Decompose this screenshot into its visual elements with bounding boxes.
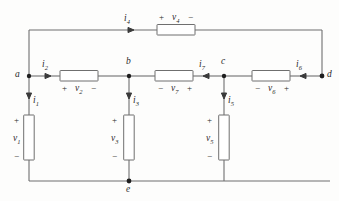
current-arrow-i5 xyxy=(221,93,226,99)
current-label-i4: i4 xyxy=(124,14,130,25)
polarity-plus-v4: + xyxy=(159,13,164,22)
polarity-plus-v1: + xyxy=(14,116,19,125)
polarity-plus-v3: + xyxy=(112,116,117,125)
node-label-e: e xyxy=(126,185,130,195)
voltage-label-v6: v6 xyxy=(268,84,275,95)
current-label-i7: i7 xyxy=(199,60,205,71)
current-arrow-i3 xyxy=(126,93,131,99)
voltage-label-v2: v2 xyxy=(75,84,82,95)
current-label-i6: i6 xyxy=(296,60,302,71)
current-label-i2: i2 xyxy=(42,60,48,71)
resistor-r2[interactable] xyxy=(60,71,98,82)
polarity-plus-v2: + xyxy=(62,84,67,93)
polarity-minus-v3: − xyxy=(112,152,117,161)
current-label-i5: i5 xyxy=(228,96,234,107)
node-label-a: a xyxy=(15,70,20,80)
voltage-label-v3: v3 xyxy=(111,134,118,145)
node-label-d: d xyxy=(327,70,332,80)
polarity-plus-v7: + xyxy=(187,84,192,93)
branch-middle-rail xyxy=(29,71,322,82)
branch-v3 xyxy=(124,76,135,181)
node-dot-d xyxy=(320,74,325,79)
current-arrow-i4 xyxy=(128,27,134,32)
polarity-minus-v2: − xyxy=(91,84,96,93)
current-arrow-i1 xyxy=(26,93,31,99)
polarity-minus-v4: − xyxy=(188,13,193,22)
current-arrow-i2 xyxy=(45,73,51,78)
node-dot-e xyxy=(127,179,132,184)
node-label-c: c xyxy=(221,57,225,67)
polarity-minus-v1: − xyxy=(14,152,19,161)
resistor-r1[interactable] xyxy=(24,115,35,160)
circuit-diagram-canvas: .wire{stroke:#6f6f6f;stroke-width:1.1;fi… xyxy=(0,0,339,201)
polarity-minus-v5: − xyxy=(207,152,212,161)
voltage-label-v4: v4 xyxy=(172,13,179,24)
resistor-r6[interactable] xyxy=(252,71,290,82)
resistor-r7[interactable] xyxy=(155,71,193,82)
polarity-plus-v6: + xyxy=(284,84,289,93)
branch-v1 xyxy=(24,76,35,181)
node-dot-b xyxy=(127,74,131,78)
current-label-i3: i3 xyxy=(133,96,139,107)
voltage-label-v7: v7 xyxy=(171,84,178,95)
node-label-b: b xyxy=(126,57,131,67)
branch-v5 xyxy=(219,76,230,181)
current-arrow-i7 xyxy=(203,73,209,78)
current-arrow-i6 xyxy=(300,73,306,78)
polarity-minus-v7: − xyxy=(158,84,163,93)
node-dot-c xyxy=(222,74,226,78)
circuit-schematic-svg: .wire{stroke:#6f6f6f;stroke-width:1.1;fi… xyxy=(0,0,339,201)
resistor-r4[interactable] xyxy=(157,25,195,36)
voltage-label-v5: v5 xyxy=(206,134,213,145)
polarity-minus-v6: − xyxy=(255,84,260,93)
polarity-plus-v5: + xyxy=(207,116,212,125)
current-label-i1: i1 xyxy=(33,96,39,107)
node-dot-a xyxy=(27,74,31,78)
resistor-r5[interactable] xyxy=(219,115,230,160)
resistor-r3[interactable] xyxy=(124,115,135,160)
voltage-label-v1: v1 xyxy=(13,134,20,145)
branch-top-a-to-d xyxy=(29,25,322,36)
